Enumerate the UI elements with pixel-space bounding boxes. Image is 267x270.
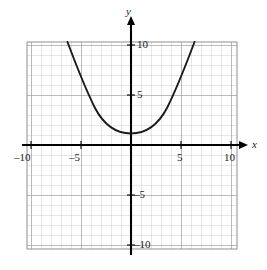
y-axis-label: y (126, 6, 131, 17)
ytick-label-5: 5 (137, 89, 143, 100)
xtick-label-5: 5 (177, 152, 183, 163)
graph-figure: –10 –5 5 10 10 5 –5 –10 y x (0, 0, 267, 270)
ytick-label-10: 10 (137, 39, 148, 50)
xtick-label-10: 10 (224, 152, 235, 163)
xtick-label-neg-5: –5 (69, 152, 80, 163)
ytick-label-neg-10: –10 (134, 239, 151, 250)
ytick-label-neg-5: –5 (134, 189, 145, 200)
xtick-label-neg-10: –10 (14, 152, 31, 163)
x-axis-label: x (252, 139, 257, 150)
coordinate-plane (0, 0, 267, 270)
